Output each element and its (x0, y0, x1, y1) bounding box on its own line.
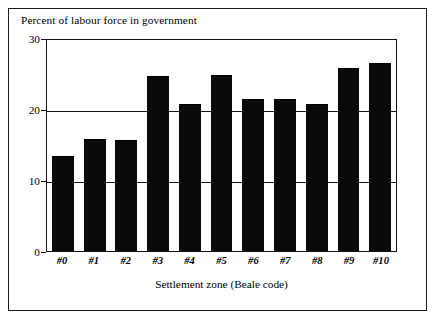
bar-#1[interactable] (84, 139, 106, 251)
x-tick-label-#2: #2 (110, 255, 142, 266)
x-tick-label-#3: #3 (142, 255, 174, 266)
x-tick-label-#0: #0 (46, 255, 78, 266)
chart-title: Percent of labour force in government (21, 14, 197, 26)
x-axis-title: Settlement zone (Beale code) (46, 278, 397, 290)
y-tick-label-10: 10 (6, 176, 40, 187)
bar-cell (142, 40, 174, 251)
x-tick-label-#10: #10 (365, 255, 397, 266)
bar-#4[interactable] (179, 104, 201, 251)
bar-#7[interactable] (274, 99, 296, 251)
bar-cell (364, 40, 396, 251)
y-tick-label-0: 0 (6, 247, 40, 258)
y-tick-mark-0 (41, 252, 46, 253)
bar-cell (79, 40, 111, 251)
bar-cell (333, 40, 365, 251)
bar-#5[interactable] (211, 75, 233, 251)
x-tick-label-#1: #1 (78, 255, 110, 266)
bar-cell (47, 40, 79, 251)
bar-cell (237, 40, 269, 251)
bar-cell (206, 40, 238, 251)
bar-cell (110, 40, 142, 251)
bar-#8[interactable] (306, 104, 328, 251)
plot-area (46, 39, 397, 252)
x-tick-label-#9: #9 (333, 255, 365, 266)
y-tick-label-20: 20 (6, 105, 40, 116)
bar-#10[interactable] (369, 63, 391, 251)
bar-cell (269, 40, 301, 251)
y-tick-label-30: 30 (6, 34, 40, 45)
x-axis-tick-labels: #0#1#2#3#4#5#6#7#8#9#10 (46, 255, 397, 266)
x-tick-label-#8: #8 (301, 255, 333, 266)
bar-cell (174, 40, 206, 251)
x-tick-label-#5: #5 (206, 255, 238, 266)
bar-#9[interactable] (338, 68, 360, 251)
bar-#0[interactable] (52, 156, 74, 251)
bar-series (47, 40, 396, 251)
y-axis-tick-labels: 3020100 (0, 39, 40, 252)
bar-#3[interactable] (147, 76, 169, 251)
bar-#2[interactable] (115, 140, 137, 251)
chart-figure: Percent of labour force in government 30… (0, 0, 437, 322)
x-tick-label-#4: #4 (174, 255, 206, 266)
x-tick-label-#7: #7 (269, 255, 301, 266)
bar-cell (301, 40, 333, 251)
bar-#6[interactable] (242, 99, 264, 251)
x-tick-label-#6: #6 (237, 255, 269, 266)
